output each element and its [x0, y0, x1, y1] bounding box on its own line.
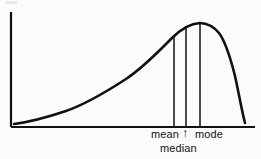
up-arrow-icon: ↑	[182, 126, 189, 139]
skewed-distribution-figure: mean ↑ mode median	[0, 0, 261, 159]
median-label: median	[160, 142, 197, 154]
mode-label: mode	[195, 128, 223, 140]
mean-label: mean	[151, 128, 179, 140]
label-layer: mean ↑ mode median	[0, 0, 261, 159]
